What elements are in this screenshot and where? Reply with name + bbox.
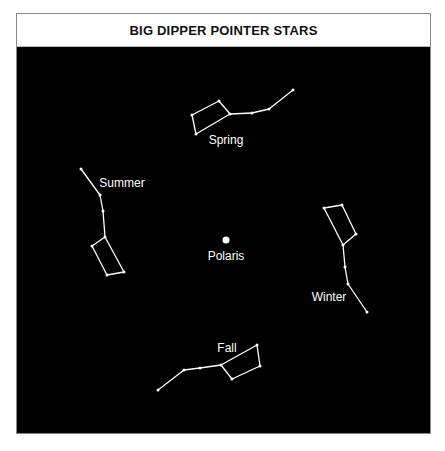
constellation-line xyxy=(324,205,342,208)
constellation-line xyxy=(269,90,293,109)
constellation-line xyxy=(342,205,356,234)
sky-chart: SpringSummerWinterFallPolaris xyxy=(0,0,445,451)
star-icon xyxy=(102,210,105,213)
star-icon xyxy=(323,207,326,210)
constellation-line xyxy=(92,246,107,275)
season-label-summer: Summer xyxy=(99,176,144,190)
star-icon xyxy=(259,365,262,368)
star-icon xyxy=(341,204,344,207)
constellation-line xyxy=(230,113,252,114)
star-icon xyxy=(104,236,107,239)
star-icon xyxy=(229,113,232,116)
constellation-line xyxy=(232,366,260,379)
star-icon xyxy=(251,112,254,115)
constellation-line xyxy=(81,169,100,195)
star-icon xyxy=(80,168,83,171)
constellation-line xyxy=(257,345,260,366)
star-icon xyxy=(268,108,271,111)
star-icon xyxy=(183,369,186,372)
constellation-line xyxy=(200,365,221,368)
season-label-winter: Winter xyxy=(312,290,347,304)
constellation-line xyxy=(348,284,367,312)
star-icon xyxy=(355,233,358,236)
star-icon xyxy=(157,389,160,392)
constellation-line xyxy=(192,101,219,115)
star-icon xyxy=(123,271,126,274)
season-label-spring: Spring xyxy=(209,133,244,147)
constellation-line xyxy=(100,195,103,211)
constellation-line xyxy=(105,237,124,272)
star-icon xyxy=(342,244,345,247)
constellation-line xyxy=(343,234,356,245)
constellation-line xyxy=(221,365,232,379)
star-icon xyxy=(91,245,94,248)
star-icon xyxy=(347,283,350,286)
constellation-line xyxy=(252,109,269,113)
constellation-line xyxy=(92,237,105,246)
star-icon xyxy=(195,133,198,136)
star-icon xyxy=(218,100,221,103)
constellation-line xyxy=(324,208,343,245)
constellation-line xyxy=(158,370,184,390)
star-icon xyxy=(99,194,102,197)
season-label-fall: Fall xyxy=(217,341,236,355)
star-icon xyxy=(106,274,109,277)
constellation-line xyxy=(103,211,105,237)
star-icon xyxy=(191,114,194,117)
star-icon xyxy=(344,266,347,269)
star-icon xyxy=(292,89,295,92)
polaris-label: Polaris xyxy=(208,249,245,263)
star-icon xyxy=(231,378,234,381)
constellation-line xyxy=(192,115,196,134)
constellation-line xyxy=(219,101,230,114)
constellation-line xyxy=(343,245,345,267)
star-icon xyxy=(199,367,202,370)
constellation-line xyxy=(184,368,200,370)
constellation-line xyxy=(345,267,348,284)
polaris-star-icon xyxy=(223,237,230,244)
constellation-line xyxy=(196,114,230,134)
constellation-line xyxy=(107,272,124,275)
star-icon xyxy=(256,344,259,347)
star-icon xyxy=(366,311,369,314)
star-icon xyxy=(220,364,223,367)
